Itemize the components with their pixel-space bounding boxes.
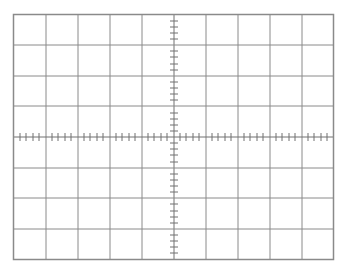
oscilloscope-graticule [0,0,343,273]
